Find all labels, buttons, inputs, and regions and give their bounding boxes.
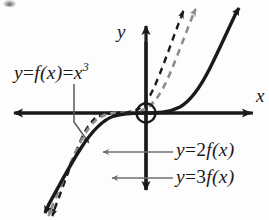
stretch2-y: y (176, 139, 185, 160)
base-label-exponent: 3 (83, 60, 89, 74)
stretch3-coefficient: 3 (196, 166, 206, 187)
stretch-2-label: y=2f(x) (176, 140, 235, 160)
stretch3-y: y (176, 166, 185, 187)
cubic-stretch-figure: y x y=f(x)=x3 y=2f(x) y=3f(x) (0, 0, 269, 220)
base-label-y: y (14, 62, 23, 83)
base-label-x: x (74, 62, 83, 83)
base-label-eq1: = (23, 62, 34, 83)
y-axis-label: y (117, 22, 126, 41)
stretch3-eq: = (185, 166, 196, 187)
base-label-eq2: = (63, 62, 74, 83)
stretch2-eq: = (185, 139, 196, 160)
stretch2-fx: f(x) (206, 139, 234, 160)
x-axis-label: x (256, 86, 265, 105)
graph-canvas (0, 0, 269, 220)
stretch-3-label: y=3f(x) (176, 167, 235, 187)
stretch3-fx: f(x) (206, 166, 234, 187)
base-function-label: y=f(x)=x3 (14, 61, 89, 82)
base-label-fx: f(x) (34, 62, 62, 83)
stretch2-coefficient: 2 (196, 139, 206, 160)
